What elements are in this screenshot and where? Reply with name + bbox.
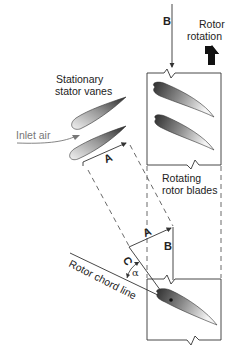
compressor-airflow-diagram: B Rotor rotation Stationary stator vanes… bbox=[0, 0, 235, 361]
label-inlet-air: Inlet air bbox=[16, 129, 51, 141]
blade-pivot-dot bbox=[169, 298, 173, 302]
label-b-lower: B bbox=[164, 240, 172, 252]
label-stator-2: stator vanes bbox=[55, 85, 112, 97]
label-a-upper: A bbox=[102, 151, 114, 165]
rotor-blade-bottom bbox=[157, 289, 217, 325]
rotor-blade-upper bbox=[153, 82, 214, 117]
dashed-line-left bbox=[88, 170, 129, 246]
label-alpha: α bbox=[132, 267, 139, 278]
stator-vane-upper bbox=[72, 97, 126, 129]
label-b-top: B bbox=[163, 15, 171, 27]
label-c: C bbox=[121, 255, 135, 268]
label-rotor-rotation-1: Rotor bbox=[199, 18, 225, 30]
label-rotor-rotation-2: rotation bbox=[187, 30, 222, 42]
label-rotating-2: rotor blades bbox=[162, 184, 217, 196]
label-stator-1: Stationary bbox=[56, 73, 104, 85]
label-rotating-1: Rotating bbox=[162, 172, 201, 184]
stator-vane-lower bbox=[70, 126, 126, 160]
rotor-blade-lower bbox=[155, 115, 214, 150]
